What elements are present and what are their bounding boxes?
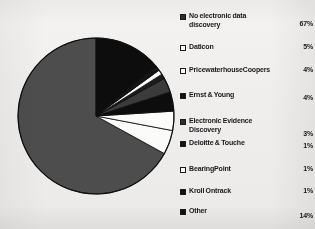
legend-item-label: Daticon	[189, 43, 313, 52]
legend-item-value: 67%	[296, 20, 313, 27]
legend-item-value: 4%	[296, 94, 313, 101]
swatch-hollow-icon	[180, 167, 186, 173]
legend-item[interactable]: Kroll Ontrack1%	[180, 187, 313, 196]
legend-item[interactable]: Deloitte & Touche1%	[180, 139, 313, 148]
legend-item-label: Ernst & Young	[189, 91, 313, 100]
legend-item-label: Deloitte & Touche	[189, 139, 313, 148]
legend-item-value: 4%	[296, 66, 313, 73]
legend-item-value: 1%	[296, 142, 313, 149]
legend-item-label: PricewaterhouseCoopers	[189, 66, 313, 75]
legend-item-value: 5%	[296, 43, 313, 50]
swatch-solid-icon	[180, 141, 186, 147]
swatch-solid-icon	[180, 209, 186, 215]
pie-slice-group	[18, 38, 174, 194]
legend-item[interactable]: No electronic data discovery67%	[180, 12, 313, 29]
legend-item-label: Kroll Ontrack	[189, 187, 313, 196]
legend-item[interactable]: Other14%	[180, 207, 313, 216]
legend-item-label: Electronic Evidence Discovery	[189, 117, 313, 134]
pie-svg	[8, 26, 184, 212]
legend-item[interactable]: PricewaterhouseCoopers4%	[180, 66, 313, 75]
legend-item-value: 3%	[296, 130, 313, 137]
legend-item[interactable]: Daticon5%	[180, 43, 313, 52]
legend-item-label: BearingPoint	[189, 165, 313, 174]
pie-chart-graphic	[8, 26, 184, 212]
swatch-hollow-icon	[180, 45, 186, 51]
legend-item[interactable]: Electronic Evidence Discovery3%	[180, 117, 313, 134]
legend-item-value: 1%	[296, 187, 313, 194]
legend-item-value: 1%	[296, 165, 313, 172]
swatch-dark-icon	[180, 119, 186, 125]
legend-item-label: Other	[189, 207, 313, 216]
swatch-solid-icon	[180, 93, 186, 99]
legend-item[interactable]: Ernst & Young4%	[180, 91, 313, 100]
swatch-solid-icon	[180, 189, 186, 195]
legend-item[interactable]: BearingPoint1%	[180, 165, 313, 174]
legend-item-value: 14%	[296, 212, 313, 219]
swatch-hollow-icon	[180, 68, 186, 74]
pie-chart-figure: No electronic data discovery67%Daticon5%…	[0, 0, 315, 229]
legend-item-label: No electronic data discovery	[189, 12, 313, 29]
chart-legend: No electronic data discovery67%Daticon5%…	[180, 8, 313, 221]
swatch-dark-icon	[180, 14, 186, 20]
